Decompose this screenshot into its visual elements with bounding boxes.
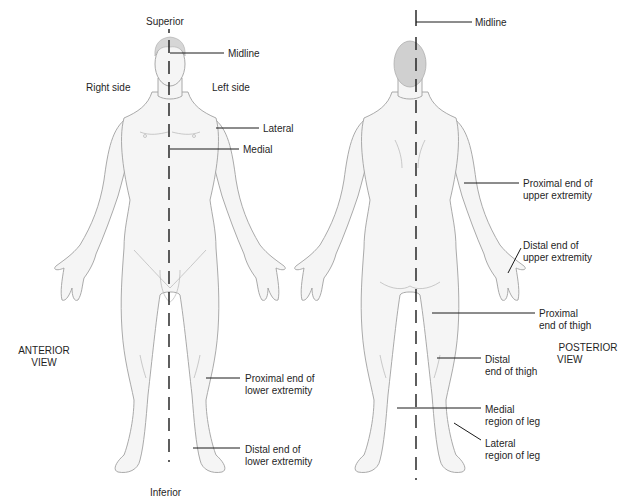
label-inferior: Inferior [150,487,181,499]
label-superior: Superior [146,16,184,28]
distal-upper-line-1: Distal end of [523,240,592,252]
anterior-figure [55,42,286,473]
label-posterior-midline: Midline [475,17,507,29]
distal-upper-line-2: upper extremity [523,252,592,264]
lateral-leg-line-1: Lateral [485,438,540,450]
label-anterior-view: ANTERIOR VIEW [16,345,72,369]
proximal-lower-line-2: lower extremity [245,385,314,397]
label-posterior-view: POSTERIOR VIEW [555,342,621,366]
label-distal-end-of-thigh: Distal end of thigh [485,354,537,378]
proximal-upper-line-2: upper extremity [523,190,592,202]
label-medial: Medial [243,144,272,156]
medial-leg-line-2: region of leg [485,416,540,428]
label-medial-region-of-leg: Medial region of leg [485,404,540,428]
posterior-hair [394,41,426,87]
proximal-lower-line-1: Proximal end of [245,373,314,385]
distal-lower-line-2: lower extremity [245,456,312,468]
distal-lower-line-1: Distal end of [245,444,312,456]
proximal-upper-line-1: Proximal end of [523,178,592,190]
anterior-view-line-1: ANTERIOR [16,345,72,357]
label-left-side: Left side [212,82,250,94]
proximal-thigh-line-2: end of thigh [539,320,591,332]
label-proximal-end-of-thigh: Proximal end of thigh [539,308,591,332]
label-distal-upper-extremity: Distal end of upper extremity [523,240,592,264]
distal-thigh-line-2: end of thigh [485,366,537,378]
label-right-side: Right side [86,82,130,94]
posterior-view-line-1: POSTERIOR [555,342,621,354]
label-proximal-lower-extremity: Proximal end of lower extremity [245,373,314,397]
medial-leg-line-1: Medial [485,404,540,416]
label-proximal-upper-extremity: Proximal end of upper extremity [523,178,592,202]
label-lateral-region-of-leg: Lateral region of leg [485,438,540,462]
anatomical-directions-figure: Superior Midline Right side Left side La… [0,0,627,501]
distal-thigh-line-1: Distal [485,354,537,366]
label-lateral: Lateral [263,123,294,135]
posterior-view-line-2: VIEW [555,354,621,366]
label-distal-lower-extremity: Distal end of lower extremity [245,444,312,468]
anterior-view-line-2: VIEW [16,357,72,369]
lateral-leg-line-2: region of leg [485,450,540,462]
label-anterior-midline: Midline [228,48,260,60]
proximal-thigh-line-1: Proximal [539,308,591,320]
